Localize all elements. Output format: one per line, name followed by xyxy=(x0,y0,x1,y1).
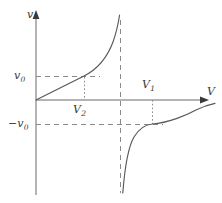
neg-v0-symbol: v xyxy=(17,117,23,130)
V2-subscript: 2 xyxy=(81,109,86,118)
v0-tick-label: v0 xyxy=(14,70,25,81)
V2-symbol: V xyxy=(73,103,81,116)
V1-symbol: V xyxy=(142,78,150,91)
curve-left-branch xyxy=(36,15,120,100)
curve-right-branch xyxy=(123,103,215,193)
V1-subscript: 1 xyxy=(150,84,155,93)
neg-v0-subscript: 0 xyxy=(24,123,29,132)
negative-v0-tick-label: −v0 xyxy=(8,118,28,129)
figure-canvas: v V v0 −v0 V2 V1 xyxy=(0,0,222,203)
y-axis-label: v xyxy=(27,9,33,20)
V1-tick-label: V1 xyxy=(142,79,155,90)
plot-svg xyxy=(0,0,222,203)
V2-tick-label: V2 xyxy=(73,104,86,115)
x-axis-label: V xyxy=(207,86,215,97)
v0-symbol: v xyxy=(14,69,20,82)
y-axis-arrowhead xyxy=(33,10,40,19)
minus-sign: − xyxy=(8,117,17,130)
v0-subscript: 0 xyxy=(21,75,26,84)
